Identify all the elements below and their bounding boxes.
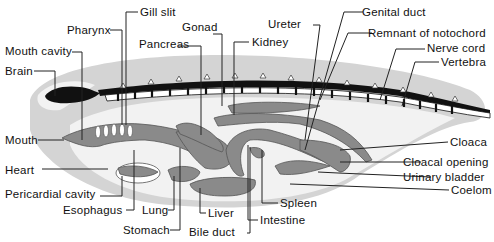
label-remnant-notochord: Remnant of notochord (368, 27, 486, 39)
label-gonad: Gonad (182, 21, 218, 33)
label-liver: Liver (208, 207, 234, 219)
label-urinary-bladder: Urinary bladder (403, 171, 485, 183)
label-pericardial-cavity: Pericardial cavity (5, 188, 96, 200)
label-cloaca: Cloaca (450, 136, 487, 148)
label-cloacal-opening: Cloacal opening (403, 156, 488, 168)
label-esophagus: Esophagus (63, 204, 122, 216)
label-stomach: Stomach (123, 224, 170, 236)
label-mouth: Mouth (5, 134, 38, 146)
label-heart: Heart (5, 164, 35, 176)
label-vertebra: Vertebra (441, 56, 486, 68)
label-lung: Lung (142, 204, 168, 216)
label-coelom: Coelom (451, 184, 492, 196)
label-spleen: Spleen (280, 197, 317, 209)
label-mouth-cavity: Mouth cavity (5, 45, 72, 57)
label-pharynx: Pharynx (67, 24, 111, 36)
label-brain: Brain (5, 65, 33, 77)
label-gill-slit: Gill slit (140, 6, 176, 18)
label-ureter: Ureter (268, 18, 301, 30)
label-kidney: Kidney (252, 36, 288, 48)
label-bile-duct: Bile duct (189, 226, 236, 238)
label-intestine: Intestine (260, 214, 305, 226)
label-genital-duct: Genital duct (362, 6, 426, 18)
vertebrate-anatomy-diagram: Gill slit Pharynx Gonad Ureter Genital d… (0, 0, 494, 242)
label-pancreas: Pancreas (139, 38, 189, 50)
label-nerve-cord: Nerve cord (427, 42, 485, 54)
